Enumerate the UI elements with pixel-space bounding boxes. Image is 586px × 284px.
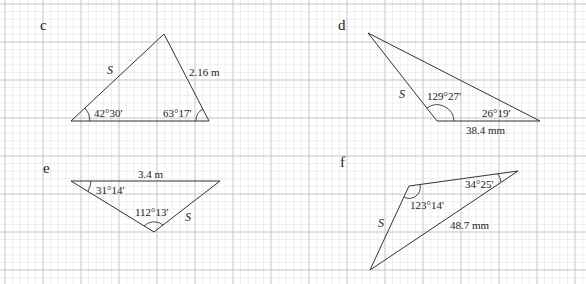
angle-e-1: 31°14'	[96, 184, 124, 196]
unknown-side-d: S	[399, 87, 405, 101]
angle-f-2: 123°14'	[410, 199, 444, 211]
triangle-c: c S 2.16 m 42°30' 63°17'	[40, 17, 220, 121]
unknown-side-e: S	[185, 210, 191, 224]
given-side-f: 48.7 mm	[450, 219, 490, 231]
angle-d-2: 26°19'	[482, 107, 510, 119]
given-side-c: 2.16 m	[189, 66, 220, 78]
angle-c-1: 42°30'	[94, 107, 122, 119]
problem-label-e: e	[43, 160, 50, 176]
angle-c-2: 63°17'	[163, 107, 191, 119]
angle-d-1: 129°27'	[427, 90, 461, 102]
problem-label-f: f	[340, 154, 345, 170]
angle-e-2: 112°13'	[135, 206, 168, 218]
problem-label-c: c	[40, 17, 47, 33]
graph-paper-canvas: c S 2.16 m 42°30' 63°17' d S 129°27' 26°…	[0, 0, 586, 284]
angle-f-1: 34°25'	[465, 178, 493, 190]
given-side-d: 38.4 mm	[466, 124, 506, 136]
unknown-side-f: S	[378, 216, 384, 230]
problem-label-d: d	[338, 17, 346, 33]
angle-arc-e-bottom	[144, 222, 163, 226]
triangle-e: e 3.4 m 31°14' 112°13' S	[43, 160, 220, 232]
given-side-e: 3.4 m	[138, 168, 164, 180]
angle-arc-f-right	[498, 174, 501, 182]
triangle-f-outline	[370, 171, 518, 270]
graph-paper-grid	[0, 0, 586, 284]
angle-arc-c-left	[85, 108, 90, 121]
angle-arc-c-right	[196, 109, 203, 121]
unknown-side-c: S	[107, 63, 113, 77]
